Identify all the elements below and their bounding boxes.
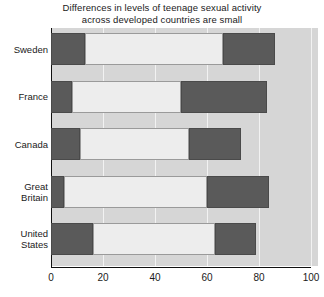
bar-france (0, 81, 324, 113)
bar-segment-3-dark (189, 128, 241, 160)
x-tick-label-60: 60 (187, 272, 227, 283)
category-label-canada: Canada (0, 139, 48, 150)
x-tick-label-0: 0 (31, 272, 71, 283)
category-label-sweden: Sweden (0, 44, 48, 55)
bar-segment-2-light (72, 81, 181, 113)
bar-segment-1-dark (51, 176, 64, 208)
category-label-line: Sweden (0, 44, 48, 55)
bar-segment-2-light (85, 33, 223, 65)
category-label-united-states: UnitedStates (0, 228, 48, 250)
category-label-line: France (0, 91, 48, 102)
bar-united-states (0, 223, 324, 255)
bar-great-britain (0, 176, 324, 208)
x-tick-label-80: 80 (239, 272, 279, 283)
bar-chart: Differences in levels of teenage sexual … (0, 0, 324, 297)
bar-segment-2-light (93, 223, 215, 255)
bar-segment-2-light (64, 176, 207, 208)
bar-segment-3-dark (215, 223, 257, 255)
chart-title-line-2: across developed countries are small (0, 14, 324, 26)
bar-segment-3-dark (223, 33, 275, 65)
bar-segment-2-light (80, 128, 189, 160)
bar-segment-3-dark (181, 81, 267, 113)
chart-title-line-1: Differences in levels of teenage sexual … (63, 2, 262, 13)
category-label-line: Britain (0, 192, 48, 203)
category-label-line: Great (0, 181, 48, 192)
bar-sweden (0, 33, 324, 65)
category-label-france: France (0, 91, 48, 102)
x-tick-label-100: 100 (291, 272, 324, 283)
bar-segment-1-dark (51, 33, 85, 65)
category-label-line: Canada (0, 139, 48, 150)
chart-title: Differences in levels of teenage sexual … (0, 2, 324, 26)
category-label-line: United (0, 228, 48, 239)
x-axis-line (51, 267, 311, 268)
bar-segment-1-dark (51, 128, 80, 160)
x-tick-label-40: 40 (135, 272, 175, 283)
bar-segment-3-dark (207, 176, 269, 208)
bar-canada (0, 128, 324, 160)
bar-segment-1-dark (51, 223, 93, 255)
x-tick-label-20: 20 (83, 272, 123, 283)
category-label-line: States (0, 239, 48, 250)
bar-segment-1-dark (51, 81, 72, 113)
category-label-great-britain: GreatBritain (0, 181, 48, 203)
